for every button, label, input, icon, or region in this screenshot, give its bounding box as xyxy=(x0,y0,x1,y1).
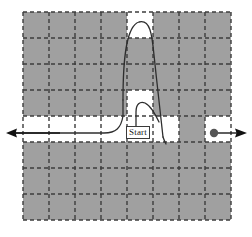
free-cell xyxy=(153,116,179,142)
free-cell xyxy=(101,116,127,142)
diagram-canvas: Start xyxy=(0,0,252,237)
free-cell xyxy=(75,116,101,142)
right-arrow-head xyxy=(235,128,247,137)
free-cell xyxy=(127,12,153,38)
goal-dot xyxy=(210,129,218,137)
free-cell xyxy=(205,116,231,142)
start-label: Start xyxy=(126,126,150,139)
left-arrow-head xyxy=(6,129,17,138)
free-cell xyxy=(23,116,49,142)
grid-maze-diagram xyxy=(0,0,252,237)
free-cell xyxy=(49,116,75,142)
